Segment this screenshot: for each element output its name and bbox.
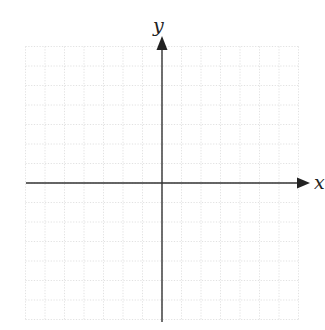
x-axis-arrow-icon <box>297 178 310 189</box>
y-axis-arrow-icon <box>157 36 168 50</box>
coordinate-plane: x y <box>0 0 325 330</box>
x-axis-label: x <box>314 171 325 193</box>
y-axis-label: y <box>152 14 164 36</box>
